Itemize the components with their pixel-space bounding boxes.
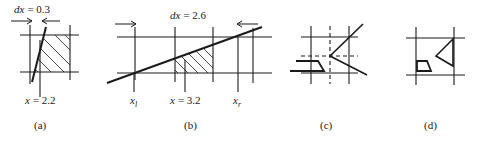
left-arrow-icon	[42, 18, 60, 24]
panel-d: (d)	[406, 27, 465, 132]
panel-c: (c)	[290, 24, 367, 132]
caption-b: (b)	[184, 119, 197, 132]
x-label-b: x= 3.2	[169, 94, 201, 106]
triangle-shape-d	[436, 39, 453, 66]
xr-label-b: xr	[232, 94, 242, 109]
trapezoid-shape-d	[417, 61, 431, 71]
caption-d: (d)	[424, 119, 437, 132]
caption-c: (c)	[320, 119, 333, 132]
panel-b: dx= 2.6	[107, 9, 272, 132]
hatched-region-b	[145, 40, 235, 80]
figure-canvas: dx= 0.3	[0, 0, 477, 142]
left-arrow-icon	[237, 21, 258, 27]
right-arrow-icon	[115, 21, 136, 27]
xl-label-b: xl	[129, 94, 138, 109]
x-label-a: x= 2.2	[24, 94, 56, 106]
trapezoid-shape-c	[290, 61, 324, 71]
grid-lines-a	[20, 25, 79, 97]
caption-a: (a)	[34, 119, 47, 132]
panel-a: dx= 0.3	[10, 3, 110, 132]
dx-label-b: dx= 2.6	[170, 9, 207, 21]
dx-label-a: dx= 0.3	[14, 3, 51, 15]
right-arrow-icon	[11, 18, 32, 24]
